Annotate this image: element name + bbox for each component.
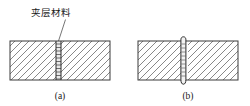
leader-line: [59, 20, 66, 42]
panel-a-caption: (a): [55, 91, 66, 102]
plate-outline-b: [138, 41, 238, 80]
interlayer-band: [56, 41, 61, 80]
technical-diagram: 夹层材料: [0, 0, 250, 106]
interlayer-material-label: 夹层材料: [31, 7, 71, 18]
panel-b-caption: (b): [182, 91, 193, 102]
hatch-a-right: [25, 41, 141, 80]
hatch-b-left: [104, 41, 220, 80]
hatch-a-left: [0, 41, 92, 80]
hatch-b-right: [153, 41, 250, 80]
figure-container: 夹层材料: [0, 0, 250, 106]
panel-a: (a): [0, 41, 141, 102]
panel-b: (b): [104, 37, 250, 102]
